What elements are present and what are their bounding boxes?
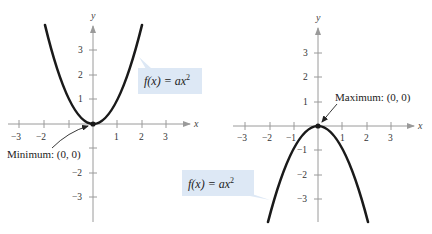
right-function-label: f(x) = ax2 xyxy=(188,176,234,191)
parabola-figure: x y −3 −2 1 2 3 3 2 1 −2 xyxy=(0,0,432,234)
right-graph: x y −3 −2 −1 1 2 3 3 2 1 xyxy=(182,12,423,222)
svg-text:−2: −2 xyxy=(297,170,307,180)
svg-text:−1: −1 xyxy=(286,133,296,143)
right-y-axis-label: y xyxy=(315,12,321,23)
right-x-axis-label: x xyxy=(417,120,423,131)
svg-text:2: 2 xyxy=(303,72,308,82)
right-function-label-box: f(x) = ax2 xyxy=(182,170,270,200)
left-function-label: f(x) = ax2 xyxy=(144,73,190,88)
maximum-annotation: Maximum: (0, 0) xyxy=(335,91,411,104)
svg-text:1: 1 xyxy=(114,132,119,142)
maximum-pointer-arrow xyxy=(322,104,337,122)
svg-text:1: 1 xyxy=(78,94,83,104)
svg-text:1: 1 xyxy=(303,97,308,107)
svg-text:2: 2 xyxy=(78,70,83,80)
svg-text:2: 2 xyxy=(364,133,369,143)
minimum-annotation: Minimum: (0, 0) xyxy=(7,148,81,161)
vertex-maximum-point xyxy=(315,123,320,128)
svg-text:2: 2 xyxy=(139,132,144,142)
left-x-axis-label: x xyxy=(193,118,199,129)
vertex-minimum-point xyxy=(90,121,95,126)
left-graph: x y −3 −2 1 2 3 3 2 1 −2 xyxy=(7,10,202,222)
svg-text:1: 1 xyxy=(340,133,345,143)
svg-text:−3: −3 xyxy=(11,132,21,142)
svg-text:3: 3 xyxy=(163,132,168,142)
minimum-pointer-arrow xyxy=(52,126,88,148)
svg-text:−2: −2 xyxy=(36,132,46,142)
svg-text:−2: −2 xyxy=(72,168,82,178)
left-function-label-box: f(x) = ax2 xyxy=(138,57,202,94)
svg-text:−3: −3 xyxy=(237,133,247,143)
svg-text:3: 3 xyxy=(303,48,308,58)
svg-text:3: 3 xyxy=(388,133,393,143)
svg-text:−1: −1 xyxy=(297,145,307,155)
left-y-axis-label: y xyxy=(90,10,96,21)
svg-text:3: 3 xyxy=(78,45,83,55)
svg-text:−2: −2 xyxy=(262,133,272,143)
svg-text:−3: −3 xyxy=(297,194,307,204)
svg-text:−3: −3 xyxy=(72,192,82,202)
